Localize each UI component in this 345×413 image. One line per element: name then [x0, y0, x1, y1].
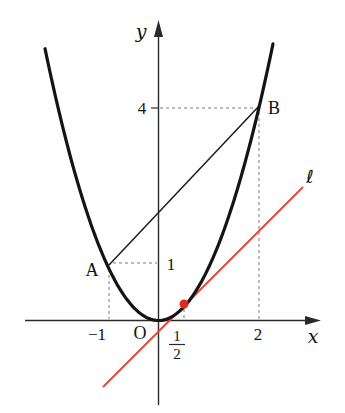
x-tick-minus1-label: −1	[88, 325, 106, 344]
y-tick-4-label: 4	[138, 99, 147, 118]
graph-canvas: y x O ℓ A B −1 2 1 4 1 2	[0, 0, 345, 413]
dashed-guides	[109, 108, 259, 319]
origin-label: O	[134, 323, 147, 343]
x-axis-arrowhead	[305, 316, 321, 325]
tangent-line-ell	[103, 187, 303, 387]
line-ell-label: ℓ	[305, 166, 313, 187]
tangent-point-dot	[180, 300, 189, 309]
y-axis-label: y	[135, 20, 147, 42]
x-axis-label: x	[308, 325, 319, 347]
point-B-label: B	[268, 98, 280, 118]
point-A-label: A	[86, 260, 99, 280]
x-tick-2-label: 2	[254, 325, 263, 344]
x-tick-half-denominator: 2	[173, 346, 181, 362]
x-tick-half-numerator: 1	[173, 328, 181, 344]
y-axis-arrowhead	[154, 20, 163, 37]
y-tick-1-label: 1	[167, 255, 176, 274]
math-figure: y x O ℓ A B −1 2 1 4 1 2	[0, 0, 345, 413]
